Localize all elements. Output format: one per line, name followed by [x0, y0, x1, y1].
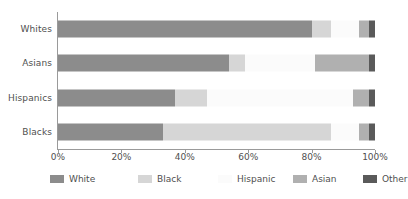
bar-segment-asian — [353, 89, 369, 106]
bar-segment-white — [58, 21, 312, 38]
legend-item-asian[interactable]: Asian — [293, 173, 337, 185]
category-label-hispanics: Hispanics — [8, 93, 52, 103]
legend-swatch-black — [138, 175, 152, 183]
legend-swatch-asian — [293, 175, 307, 183]
x-axis-tick-0pct: 0% — [51, 152, 65, 162]
stacked-bar — [58, 55, 375, 72]
legend-item-white[interactable]: White — [50, 173, 95, 185]
legend-label-asian: Asian — [312, 174, 337, 184]
category-label-blacks: Blacks — [22, 127, 52, 137]
bar-row-whites: Whites — [58, 12, 375, 46]
legend-label-other: Other — [382, 174, 408, 184]
plot-area: WhitesAsiansHispanicsBlacks — [58, 12, 375, 149]
category-label-whites: Whites — [21, 24, 52, 34]
bar-segment-hispanic — [245, 55, 315, 72]
bar-segment-white — [58, 55, 229, 72]
stacked-bar — [58, 123, 375, 140]
bar-segment-hispanic — [331, 21, 360, 38]
bar-segment-black — [312, 21, 331, 38]
x-axis-tick-40pct: 40% — [175, 152, 195, 162]
bar-segment-black — [163, 123, 331, 140]
legend-item-other[interactable]: Other — [363, 173, 408, 185]
bar-segment-white — [58, 89, 175, 106]
stacked-bar — [58, 89, 375, 106]
legend-item-hispanic[interactable]: Hispanic — [218, 173, 275, 185]
bar-segment-hispanic — [207, 89, 353, 106]
stacked-bar — [58, 21, 375, 38]
bar-segment-black — [175, 89, 207, 106]
bar-row-asians: Asians — [58, 46, 375, 80]
legend-swatch-other — [363, 175, 377, 183]
bar-row-hispanics: Hispanics — [58, 81, 375, 115]
bar-segment-asian — [359, 123, 369, 140]
legend-label-white: White — [69, 174, 95, 184]
bar-segment-hispanic — [331, 123, 360, 140]
legend-swatch-hispanic — [218, 175, 232, 183]
chart-legend: WhiteBlackHispanicAsianOther — [50, 173, 390, 187]
bar-segment-other — [369, 55, 375, 72]
legend-item-black[interactable]: Black — [138, 173, 181, 185]
x-axis-tick-20pct: 20% — [111, 152, 131, 162]
x-axis-tick-80pct: 80% — [302, 152, 322, 162]
bar-segment-other — [369, 89, 375, 106]
category-label-asians: Asians — [22, 58, 52, 68]
bar-row-blacks: Blacks — [58, 115, 375, 149]
legend-swatch-white — [50, 175, 64, 183]
legend-label-hispanic: Hispanic — [237, 174, 275, 184]
bar-segment-other — [369, 123, 375, 140]
legend-label-black: Black — [157, 174, 181, 184]
x-axis-tick-labels: 0%20%40%60%80%100% — [58, 150, 375, 166]
bar-segment-white — [58, 123, 163, 140]
x-axis-tick-100pct: 100% — [362, 152, 388, 162]
bar-segment-asian — [315, 55, 369, 72]
x-axis-tick-60pct: 60% — [238, 152, 258, 162]
bar-segment-other — [369, 21, 375, 38]
bar-segment-asian — [359, 21, 369, 38]
bar-segment-black — [229, 55, 245, 72]
